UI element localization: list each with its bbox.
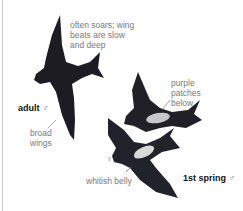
female-symbol-icon: ♀ (106, 154, 113, 164)
purple-patches-note: purple patches below (171, 78, 201, 108)
male-symbol-icon: ♂ (42, 103, 49, 113)
first-spring-male-label: 1st spring ♂ (183, 173, 235, 183)
male-symbol-icon: ♂ (229, 173, 236, 183)
adult-male-label: adult ♂ (18, 103, 49, 113)
female-label: ♀ (106, 154, 113, 164)
leader-purple-patches (162, 100, 170, 110)
flight-note: often soars; wing beats are slow and dee… (70, 20, 134, 50)
whitish-belly-note: whitish belly (86, 176, 132, 186)
leader-broad-wings (48, 120, 56, 128)
broad-wings-note: broad wings (30, 128, 52, 148)
